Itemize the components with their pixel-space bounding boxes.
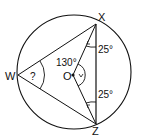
angle-label-o: 130°: [56, 57, 77, 68]
label-o: O: [63, 70, 72, 82]
angle-label-x: 25°: [98, 44, 113, 55]
labels-layer: X Z W O 25° 25° 130° ?: [0, 0, 145, 136]
label-z: Z: [92, 125, 99, 136]
angle-label-z: 25°: [98, 89, 113, 100]
label-w: W: [5, 70, 16, 82]
label-x: X: [98, 11, 106, 23]
angle-label-w: ?: [30, 71, 36, 82]
